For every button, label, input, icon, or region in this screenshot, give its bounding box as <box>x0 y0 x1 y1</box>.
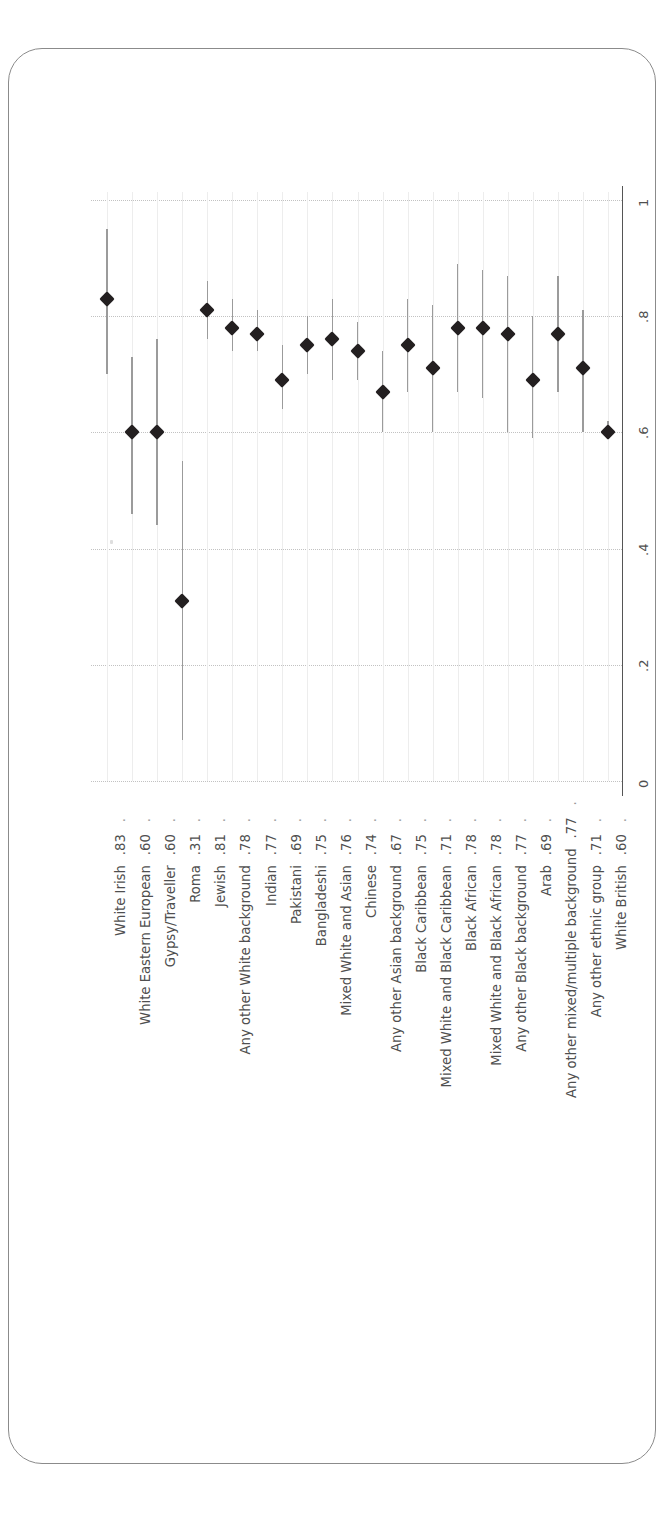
category-value-label: .78 <box>238 829 253 855</box>
category-label-row: Arab.69. <box>539 818 561 1098</box>
category-label: Any other ethnic group <box>589 865 604 1017</box>
chart-stage: 0.2.4.6.81 White Irish.83.White Eastern … <box>0 0 670 1519</box>
tick-dot-icon: . <box>514 818 529 822</box>
tick-dot-icon: . <box>289 818 304 822</box>
data-point-marker[interactable] <box>400 337 416 353</box>
category-label: Black Caribbean <box>414 865 429 973</box>
confidence-interval-bar <box>507 276 508 433</box>
gridline-category <box>257 192 258 781</box>
data-point-marker[interactable] <box>124 425 140 441</box>
category-label: Gypsy/Traveller <box>163 865 178 967</box>
gridline-value-.6 <box>91 432 622 433</box>
tick-dot-icon: . <box>389 818 404 822</box>
gridline-category <box>408 192 409 781</box>
category-label: Black African <box>464 865 479 951</box>
category-value-label: .75 <box>414 829 429 855</box>
tick-dot-icon: . <box>213 818 228 822</box>
category-value-label: .74 <box>364 829 379 855</box>
category-value-label: .81 <box>213 829 228 855</box>
category-value-label: .71 <box>439 829 454 855</box>
gridline-value-0 <box>91 781 622 782</box>
category-label: Mixed White and Black Caribbean <box>439 865 454 1087</box>
category-label: Bangladeshi <box>314 865 329 946</box>
tick-dot-icon: . <box>539 818 554 822</box>
value-axis-tick-1: 1 <box>636 167 650 207</box>
data-point-marker[interactable] <box>99 291 115 307</box>
category-value-label: .77 <box>514 829 529 855</box>
tick-dot-icon: . <box>238 818 253 822</box>
category-value-label: .60 <box>614 829 629 855</box>
category-label: Mixed White and Black African <box>489 865 504 1066</box>
category-value-label: .75 <box>314 829 329 855</box>
data-point-marker[interactable] <box>224 320 240 336</box>
category-label-row: White Eastern European.60. <box>138 818 160 1098</box>
category-label-row: Black Caribbean.75. <box>414 818 436 1098</box>
gridline-category <box>332 192 333 781</box>
data-point-marker[interactable] <box>375 384 391 400</box>
category-value-label: .60 <box>163 829 178 855</box>
tick-dot-icon: . <box>614 818 629 822</box>
data-point-marker[interactable] <box>275 372 291 388</box>
tick-dot-icon: . <box>489 818 504 822</box>
gridline-category <box>232 192 233 781</box>
category-label-row: Any other White background.78. <box>238 818 260 1098</box>
data-point-marker[interactable] <box>525 372 541 388</box>
data-point-marker[interactable] <box>550 326 566 342</box>
gridline-category <box>583 192 584 781</box>
gridline-value-.2 <box>91 665 622 666</box>
data-point-marker[interactable] <box>250 326 266 342</box>
data-point-marker[interactable] <box>325 332 341 348</box>
data-point-marker[interactable] <box>575 361 591 377</box>
data-point-marker[interactable] <box>500 326 516 342</box>
tick-dot-icon: . <box>564 801 579 805</box>
tick-dot-icon: . <box>414 818 429 822</box>
data-point-marker[interactable] <box>425 361 441 377</box>
category-label-row: Mixed White and Black Caribbean.71. <box>439 818 461 1098</box>
category-label-row: Bangladeshi.75. <box>314 818 336 1098</box>
category-label-row: Black African.78. <box>464 818 486 1098</box>
data-point-marker[interactable] <box>450 320 466 336</box>
category-label-row: Chinese.74. <box>364 818 386 1098</box>
tick-dot-icon: . <box>314 818 329 822</box>
category-value-label: .71 <box>589 829 604 855</box>
gridline-value-.4 <box>91 549 622 550</box>
category-label: Any other Black background <box>514 865 529 1052</box>
category-label: Mixed White and Asian <box>339 865 354 1016</box>
category-value-label: .69 <box>539 829 554 855</box>
category-label: White British <box>614 865 629 950</box>
category-label-row: Indian.77. <box>264 818 286 1098</box>
category-label: Any other White background <box>238 865 253 1054</box>
category-label: Roma <box>188 865 203 903</box>
value-axis-line <box>622 186 623 796</box>
data-point-marker[interactable] <box>174 593 190 609</box>
category-value-label: .31 <box>188 829 203 855</box>
gridline-category <box>307 192 308 781</box>
tick-dot-icon: . <box>339 818 354 822</box>
tick-dot-icon: . <box>188 818 203 822</box>
data-point-marker[interactable] <box>300 337 316 353</box>
data-point-marker[interactable] <box>149 425 165 441</box>
print-speck <box>110 540 113 544</box>
data-point-marker[interactable] <box>350 343 366 359</box>
category-label-row: Any other Black background.77. <box>514 818 536 1098</box>
gridline-value-.8 <box>91 316 622 317</box>
category-label-row: Mixed White and Black African.78. <box>489 818 511 1098</box>
category-label-row: Any other mixed/multiple background.77. <box>564 818 586 1098</box>
value-axis-tick-.2: .2 <box>636 632 650 672</box>
category-label: Jewish <box>213 865 228 907</box>
data-point-marker[interactable] <box>475 320 491 336</box>
tick-dot-icon: . <box>138 818 153 822</box>
category-value-label: .78 <box>464 829 479 855</box>
data-point-marker[interactable] <box>600 425 616 441</box>
category-value-label: .83 <box>113 829 128 855</box>
category-value-label: .77 <box>264 829 279 855</box>
tick-dot-icon: . <box>113 818 128 822</box>
category-value-label: .67 <box>389 829 404 855</box>
category-value-label: .78 <box>489 829 504 855</box>
category-label: White Eastern European <box>138 865 153 1025</box>
tick-dot-icon: . <box>439 818 454 822</box>
category-label-row: White British.60. <box>614 818 636 1098</box>
category-label: White Irish <box>113 865 128 936</box>
value-axis-tick-.6: .6 <box>636 399 650 439</box>
category-label: Pakistani <box>289 865 304 924</box>
